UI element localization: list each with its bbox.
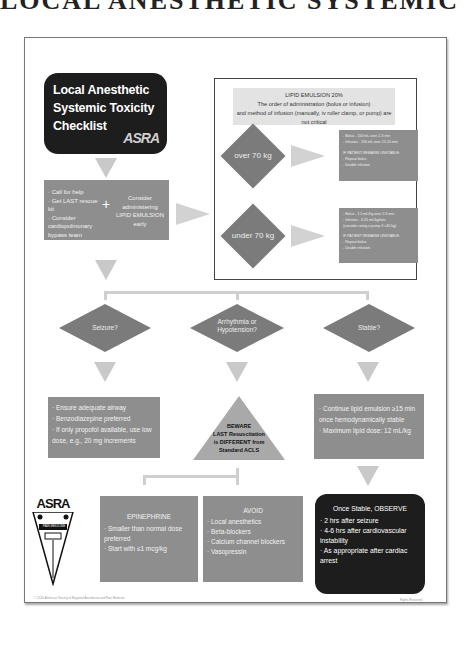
footer-rights: Rights Reserved [400, 598, 422, 602]
bracket-connector [236, 468, 239, 485]
under-70-label: under 70 kg [222, 231, 284, 240]
branch-connector [104, 291, 107, 300]
branch-connector [236, 291, 239, 300]
dose-line: - Double infusion [343, 245, 414, 251]
stable-item: · Continue lipid emulsion ≥15 min once h… [319, 403, 419, 425]
arrow-down-icon [95, 158, 117, 178]
dose-line: - Double infusion [343, 162, 414, 168]
lipid-line: The order of administration (bolus or in… [233, 100, 395, 109]
arrow-down-icon [94, 362, 116, 382]
checklist-title-box: Local Anesthetic Systemic Toxicity Check… [44, 73, 167, 154]
beware-line: BEWARE [207, 422, 271, 430]
seizure-management-box: · Ensure adequate airway · Benzodiazepin… [48, 397, 160, 458]
avoid-item: · Beta-blockers [207, 527, 299, 537]
title-line: Systemic Toxicity [53, 99, 154, 117]
arrow-down-icon [95, 260, 117, 280]
avoid-title: AVOID [207, 506, 299, 516]
epinephrine-item: · Smaller than normal dose preferred [104, 524, 194, 544]
arrow-down-icon [226, 362, 248, 382]
first-steps-list: · Call for help · Get LAST rescue kit · … [48, 188, 98, 239]
over-70-dosing-box: - Bolus - 100 mL over 2-3 min - Infusion… [339, 130, 418, 181]
bracket-connector [143, 475, 146, 485]
avoid-item: · Vasopressin [207, 547, 299, 557]
beware-line: is DIFFERENT from [207, 438, 271, 446]
seizure-item: · Ensure adequate airway [52, 402, 156, 413]
arrow-right-icon [291, 145, 325, 167]
first-step-item: · Get LAST rescue kit [48, 197, 98, 214]
first-step-item: · Consider cardiopulmonary bypass team [48, 214, 98, 240]
epinephrine-box: EPINEPHRINE · Smaller than normal dose p… [100, 496, 198, 582]
avoid-item: · Calcium channel blockers [207, 537, 299, 547]
beware-line: LAST Resuscitation [207, 430, 271, 438]
branch-connector [366, 291, 369, 300]
decision-label: Seizure? [59, 324, 151, 332]
lipid-emulsion-header: LIPID EMULSION 20% The order of administ… [233, 88, 395, 125]
asra-logo-small: ASRA [123, 130, 159, 146]
arrow-right-icon [291, 225, 325, 247]
observe-item: · 4-6 hrs after cardiovascular instabili… [320, 526, 420, 546]
arrow-down-icon [357, 362, 379, 382]
epinephrine-title: EPINEPHRINE [104, 512, 194, 522]
lipid-title: LIPID EMULSION 20% [233, 91, 395, 100]
first-steps-box: · Call for help · Get LAST rescue kit · … [44, 180, 169, 240]
checklist-title: Local Anesthetic Systemic Toxicity Check… [53, 81, 154, 135]
arrow-down-icon [357, 466, 379, 486]
plus-icon: + [102, 200, 110, 209]
consider-lipid-text: Consider administering LIPID EMULSION ea… [114, 194, 166, 228]
asra-pain-medicine-logo: ASRA PAIN MEDICINE [32, 496, 74, 586]
first-step-item: · Call for help [48, 188, 98, 197]
observe-box: Once Stable, OBSERVE · 2 hrs after seizu… [315, 494, 425, 594]
avoid-item: · Local anesthetics [207, 517, 299, 527]
bracket-connector [143, 475, 239, 478]
seizure-item: · If only propofol available, use low do… [52, 424, 156, 446]
seizure-item: · Benzodiazepine preferred [52, 413, 156, 424]
page-title: LOCAL ANESTHETIC SYSTEMIC TOXICITY [0, 0, 467, 16]
title-line: Local Anesthetic [53, 81, 154, 99]
stable-item: · Maximum lipid dose: 12 mL/kg [319, 425, 419, 436]
decision-arrhythmia: Arrhythmia or Hypotension? [190, 304, 284, 352]
decision-label: Stable? [323, 324, 415, 332]
asra-logo-text: ASRA [32, 496, 74, 511]
asra-logo-band: PAIN MEDICINE [40, 524, 68, 528]
over-70-label: over 70 kg [222, 151, 284, 160]
stable-management-box: · Continue lipid emulsion ≥15 min once h… [314, 394, 424, 459]
decision-label: Arrhythmia or Hypotension? [214, 318, 260, 334]
avoid-box: AVOID · Local anesthetics · Beta-blocker… [203, 496, 303, 582]
under-70-dosing-box: - Bolus - 1.5 mL/kg over 2-3 min - Infus… [339, 208, 418, 263]
beware-line: Standard ACLS [207, 446, 271, 454]
observe-item: · 2 hrs after seizure [320, 516, 420, 526]
observe-item: · As appropriate after cardiac arrest [320, 546, 420, 566]
beware-text: BEWARE LAST Resuscitation is DIFFERENT f… [207, 422, 271, 454]
decision-seizure: Seizure? [59, 304, 151, 352]
observe-title: Once Stable, OBSERVE [320, 504, 420, 514]
decision-stable: Stable? [323, 304, 415, 352]
footer-copyright: © 2020 American Society of Regional Anes… [34, 596, 125, 600]
lipid-line: and method of infusion (manually, iv rol… [233, 109, 395, 127]
arrow-right-icon [176, 203, 210, 225]
epinephrine-item: · Start with ≤1 mcg/kg [104, 544, 194, 554]
